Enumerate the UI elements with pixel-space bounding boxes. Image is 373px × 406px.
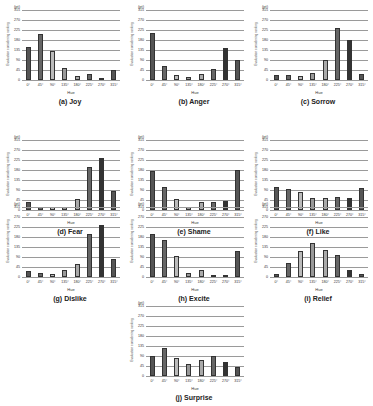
y-tick-label: 270 bbox=[258, 148, 268, 152]
x-tick-label: 315° bbox=[232, 83, 244, 87]
y-tick-label: 0 bbox=[10, 78, 20, 82]
y-tick-label: 0 bbox=[258, 275, 268, 279]
bar-chart-panel-0: (pt) Evaluation considering ranking 0459… bbox=[0, 4, 124, 132]
y-tick-label: 90 bbox=[258, 188, 268, 192]
y-tick-label: 180 bbox=[134, 235, 144, 239]
bar-5 bbox=[211, 356, 216, 376]
x-tick-label: 90° bbox=[171, 379, 183, 383]
y-axis-label: Evaluation considering ranking bbox=[254, 211, 258, 271]
y-tick-label: 315 bbox=[10, 205, 20, 209]
y-axis-label: Evaluation considering ranking bbox=[6, 211, 10, 271]
y-tick-label: 270 bbox=[258, 18, 268, 22]
bar-3 bbox=[310, 243, 315, 277]
bar-4 bbox=[323, 250, 328, 277]
y-tick-label: 315 bbox=[134, 8, 144, 12]
gridline bbox=[146, 237, 244, 238]
bar-0 bbox=[150, 356, 155, 376]
y-tick-label: 180 bbox=[10, 235, 20, 239]
y-tick-label: 135 bbox=[134, 178, 144, 182]
gridline bbox=[22, 247, 120, 248]
plot-area: 04590135180225270315 bbox=[146, 10, 244, 80]
y-tick-label: 90 bbox=[134, 255, 144, 259]
y-tick-label: 225 bbox=[258, 28, 268, 32]
bar-5 bbox=[335, 255, 340, 277]
x-tick-label: 315° bbox=[356, 280, 368, 284]
x-tick-label: 180° bbox=[71, 83, 83, 87]
bar-2 bbox=[50, 274, 55, 277]
bar-0 bbox=[274, 75, 279, 80]
gridline bbox=[146, 257, 244, 258]
plot-area: 04590135180225270315 bbox=[146, 207, 244, 277]
bar-7 bbox=[111, 70, 116, 80]
bar-chart-panel-1: (pt) Evaluation considering ranking 0459… bbox=[124, 4, 248, 132]
gridline bbox=[270, 170, 368, 171]
gridline bbox=[146, 10, 244, 11]
chart-caption: (b) Anger bbox=[124, 98, 248, 105]
gridline bbox=[22, 70, 120, 71]
gridline bbox=[146, 376, 244, 377]
x-tick-label: 45° bbox=[34, 280, 46, 284]
x-tick-label: 270° bbox=[344, 280, 356, 284]
x-tick-label: 180° bbox=[319, 83, 331, 87]
bar-1 bbox=[162, 348, 167, 376]
bar-3 bbox=[62, 270, 67, 277]
gridline bbox=[146, 267, 244, 268]
gridline bbox=[22, 20, 120, 21]
gridline bbox=[146, 306, 244, 307]
x-axis-label: Hue bbox=[270, 287, 368, 292]
gridline bbox=[146, 247, 244, 248]
gridline bbox=[22, 150, 120, 151]
y-tick-label: 270 bbox=[134, 18, 144, 22]
y-axis-label: Evaluation considering ranking bbox=[6, 14, 10, 74]
y-tick-label: 270 bbox=[10, 215, 20, 219]
y-tick-label: 315 bbox=[258, 138, 268, 142]
gridline bbox=[22, 217, 120, 218]
x-tick-label: 0° bbox=[22, 83, 34, 87]
y-tick-label: 180 bbox=[10, 38, 20, 42]
gridline bbox=[22, 277, 120, 278]
y-tick-label: 90 bbox=[134, 354, 144, 358]
gridline bbox=[270, 247, 368, 248]
x-tick-label: 45° bbox=[282, 280, 294, 284]
gridline bbox=[270, 60, 368, 61]
gridline bbox=[146, 140, 244, 141]
y-tick-label: 180 bbox=[134, 168, 144, 172]
bar-2 bbox=[298, 76, 303, 80]
bar-4 bbox=[199, 270, 204, 277]
bar-3 bbox=[186, 364, 191, 376]
y-tick-label: 45 bbox=[258, 68, 268, 72]
bar-0 bbox=[26, 47, 31, 80]
y-tick-label: 90 bbox=[10, 58, 20, 62]
bar-5 bbox=[211, 69, 216, 80]
y-tick-label: 270 bbox=[258, 215, 268, 219]
y-tick-label: 45 bbox=[134, 265, 144, 269]
gridline bbox=[146, 326, 244, 327]
x-tick-label: 135° bbox=[59, 83, 71, 87]
x-tick-label: 225° bbox=[331, 280, 343, 284]
y-tick-label: 45 bbox=[258, 265, 268, 269]
gridline bbox=[146, 150, 244, 151]
gridline bbox=[146, 170, 244, 171]
y-tick-label: 225 bbox=[10, 28, 20, 32]
y-tick-label: 135 bbox=[258, 48, 268, 52]
x-axis-ticks: 0°45°90°135°180°225°270°315° bbox=[146, 83, 244, 89]
gridline bbox=[146, 40, 244, 41]
x-axis-ticks: 0°45°90°135°180°225°270°315° bbox=[22, 280, 120, 286]
plot-area: 04590135180225270315 bbox=[270, 207, 368, 277]
bar-2 bbox=[298, 251, 303, 277]
gridline bbox=[22, 257, 120, 258]
x-tick-label: 180° bbox=[195, 83, 207, 87]
bar-2 bbox=[174, 256, 179, 277]
chart-caption: (a) Joy bbox=[0, 98, 124, 105]
gridline bbox=[270, 10, 368, 11]
gridline bbox=[146, 277, 244, 278]
bar-1 bbox=[286, 75, 291, 80]
y-tick-label: 90 bbox=[10, 255, 20, 259]
x-tick-label: 0° bbox=[270, 280, 282, 284]
x-tick-label: 135° bbox=[183, 83, 195, 87]
x-tick-label: 0° bbox=[146, 379, 158, 383]
gridline bbox=[22, 237, 120, 238]
gridline bbox=[22, 190, 120, 191]
x-axis-ticks: 0°45°90°135°180°225°270°315° bbox=[270, 83, 368, 89]
y-axis-label: Evaluation considering ranking bbox=[130, 310, 134, 370]
